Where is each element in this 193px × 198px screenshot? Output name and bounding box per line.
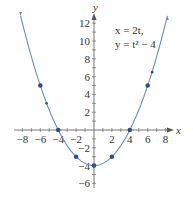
y-tick-label: 8 [85, 53, 91, 65]
data-point [38, 83, 43, 88]
curve-end-arrow-icon [19, 12, 22, 16]
y-tick-label: 2 [85, 106, 91, 118]
y-tick-label: −4 [78, 160, 90, 172]
y-tick-label: −6 [78, 177, 90, 189]
data-point [74, 154, 79, 159]
x-tick-label: −6 [34, 133, 46, 145]
axes: xy [14, 1, 181, 188]
data-point [128, 128, 133, 133]
x-tick-label: 2 [109, 133, 115, 145]
data-point [110, 154, 115, 159]
equation-line-2: y = t² − 4 [115, 38, 156, 50]
x-tick-label: 8 [163, 133, 169, 145]
y-axis-label: y [92, 1, 98, 13]
x-axis-label: x [175, 124, 181, 136]
x-axis-arrow-icon [167, 128, 174, 133]
y-tick-label: 10 [79, 35, 91, 47]
data-point [145, 83, 150, 88]
x-tick-label: 4 [127, 133, 133, 145]
parametric-chart: xy −8−6−4−2246812108642−2−4−6 x = 2t, y … [0, 0, 193, 198]
y-tick-label: 6 [85, 71, 91, 83]
direction-arrow-icon [151, 71, 154, 74]
y-axis-arrow-icon [92, 13, 97, 20]
data-point [56, 128, 61, 133]
y-tick-label: 4 [85, 88, 91, 100]
x-tick-label: −8 [17, 133, 29, 145]
direction-arrow-icon [45, 102, 48, 105]
y-tick-label: 12 [79, 17, 90, 29]
data-point [92, 163, 97, 168]
equation-annotation: x = 2t, y = t² − 4 [115, 24, 156, 50]
y-tick-label: −2 [78, 142, 90, 154]
x-tick-label: 6 [145, 133, 151, 145]
equation-line-1: x = 2t, [115, 24, 144, 36]
